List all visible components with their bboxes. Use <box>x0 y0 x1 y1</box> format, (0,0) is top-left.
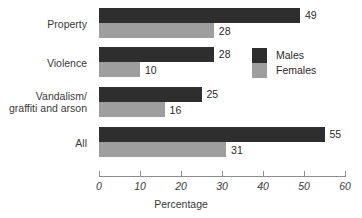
x-axis-tick <box>263 171 264 177</box>
value-label-females-violence: 10 <box>145 63 157 77</box>
category-label-all: All <box>0 138 87 150</box>
x-axis-tick-label: 60 <box>330 180 360 192</box>
bar-males-violence <box>99 47 214 62</box>
legend-swatch-males-icon <box>252 48 267 63</box>
x-axis-tick <box>222 171 223 177</box>
x-axis-tick-label: 10 <box>125 180 155 192</box>
bar-males-property <box>99 8 300 23</box>
x-axis-tick-label: 50 <box>289 180 319 192</box>
bar-females-property <box>99 23 214 38</box>
value-label-males-vandalism: 25 <box>207 87 219 101</box>
value-label-females-all: 31 <box>231 143 243 157</box>
x-axis-tick <box>140 171 141 177</box>
bar-females-vandalism <box>99 102 165 117</box>
bar-males-vandalism <box>99 87 202 102</box>
bar-males-all <box>99 127 325 142</box>
x-axis-title: Percentage <box>0 198 362 210</box>
bar-females-violence <box>99 62 140 77</box>
x-axis-tick <box>99 171 100 177</box>
x-axis-tick <box>181 171 182 177</box>
category-label-violence: Violence <box>0 58 87 70</box>
legend-label-females: Females <box>276 64 316 77</box>
legend-label-males: Males <box>276 49 304 62</box>
value-label-males-property: 49 <box>305 8 317 22</box>
value-label-males-violence: 28 <box>219 47 231 61</box>
x-axis-tick-label: 20 <box>166 180 196 192</box>
category-label-vandalism: Vandalism/ graffiti and arson <box>0 91 87 114</box>
x-axis-tick <box>345 171 346 177</box>
legend-swatch-females-icon <box>252 63 267 78</box>
value-label-females-property: 28 <box>219 24 231 38</box>
x-axis-tick-label: 40 <box>248 180 278 192</box>
bar-females-all <box>99 142 226 157</box>
value-label-females-vandalism: 16 <box>170 103 182 117</box>
x-axis-tick <box>304 171 305 177</box>
category-label-property: Property <box>0 19 87 31</box>
x-axis-tick-label: 0 <box>84 180 114 192</box>
value-label-males-all: 55 <box>330 127 342 141</box>
bar-chart: Property 49 28 Violence 28 10 Vandalism/… <box>0 0 362 218</box>
x-axis-tick-label: 30 <box>207 180 237 192</box>
